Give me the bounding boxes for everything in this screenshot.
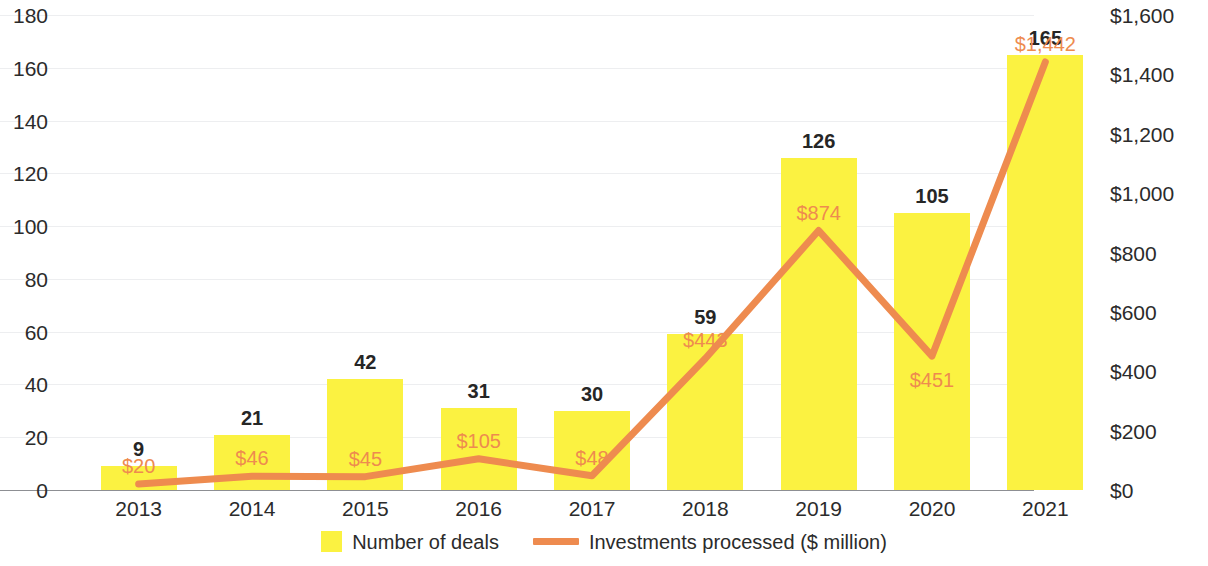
line-value-label: $1,442 xyxy=(985,34,1105,54)
bar xyxy=(1007,55,1083,490)
left-axis-tick: 80 xyxy=(0,269,48,290)
bar-value-label: 30 xyxy=(534,384,650,404)
right-axis-tick: $1,600 xyxy=(1110,5,1208,26)
line-value-label: $451 xyxy=(872,370,992,390)
bar-value-label: 31 xyxy=(421,381,537,401)
x-axis-tick: 2016 xyxy=(421,498,537,519)
x-axis-tick: 2014 xyxy=(194,498,310,519)
left-axis-tick: 120 xyxy=(0,163,48,184)
line-value-label: $20 xyxy=(79,456,199,476)
line-value-label: $45 xyxy=(305,449,425,469)
legend-item[interactable]: Investments processed ($ million) xyxy=(533,532,887,552)
x-axis-tick: 2013 xyxy=(81,498,197,519)
legend-label: Investments processed ($ million) xyxy=(589,532,887,552)
x-axis-tick: 2017 xyxy=(534,498,650,519)
bar xyxy=(667,334,743,490)
chart-container: 020406080100120140160180 $0$200$400$600$… xyxy=(0,0,1208,566)
legend-label: Number of deals xyxy=(352,532,499,552)
bar-value-label: 21 xyxy=(194,408,310,428)
left-axis-tick: 20 xyxy=(0,427,48,448)
bar xyxy=(327,379,403,490)
bar-value-label: 59 xyxy=(647,307,763,327)
line-value-label: $105 xyxy=(419,431,539,451)
right-axis-tick: $400 xyxy=(1110,361,1208,382)
legend-line-icon xyxy=(533,538,579,545)
x-axis-tick: 2015 xyxy=(307,498,423,519)
right-axis-tick: $800 xyxy=(1110,243,1208,264)
bar-value-label: 42 xyxy=(307,352,423,372)
line-value-label: $46 xyxy=(192,448,312,468)
right-axis-tick: $200 xyxy=(1110,421,1208,442)
right-axis-tick: $0 xyxy=(1110,480,1208,501)
bar xyxy=(894,213,970,490)
line-value-label: $443 xyxy=(645,330,765,350)
line-value-label: $874 xyxy=(759,203,879,223)
chart-legend: Number of dealsInvestments processed ($ … xyxy=(0,531,1208,552)
axis-baseline xyxy=(0,490,1034,491)
x-axis-tick: 2018 xyxy=(647,498,763,519)
left-axis-tick: 0 xyxy=(0,480,48,501)
right-axis-tick: $1,000 xyxy=(1110,183,1208,204)
x-axis-tick: 2020 xyxy=(874,498,990,519)
right-axis-tick: $1,400 xyxy=(1110,64,1208,85)
x-axis-tick: 2019 xyxy=(761,498,877,519)
left-axis-tick: 100 xyxy=(0,216,48,237)
left-axis-tick: 140 xyxy=(0,111,48,132)
bar-value-label: 126 xyxy=(761,131,877,151)
line-value-label: $48 xyxy=(532,448,652,468)
legend-item[interactable]: Number of deals xyxy=(321,531,499,552)
left-axis-tick: 60 xyxy=(0,322,48,343)
left-axis-tick: 160 xyxy=(0,58,48,79)
bar-value-label: 105 xyxy=(874,186,990,206)
right-axis-tick: $600 xyxy=(1110,302,1208,323)
left-axis-tick: 180 xyxy=(0,5,48,26)
x-axis-tick: 2021 xyxy=(987,498,1103,519)
legend-square-icon xyxy=(321,531,342,552)
left-axis-tick: 40 xyxy=(0,374,48,395)
right-axis-tick: $1,200 xyxy=(1110,124,1208,145)
